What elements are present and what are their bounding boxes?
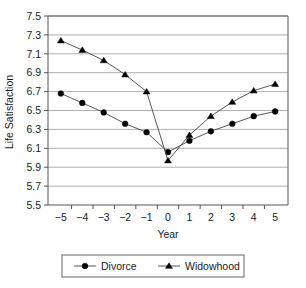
data-point-circle <box>101 110 107 116</box>
data-point-circle <box>58 91 64 97</box>
x-tick-label: 5 <box>272 211 278 223</box>
data-point-circle <box>82 263 88 269</box>
x-tick-label: −5 <box>55 211 67 223</box>
x-tick-label: −1 <box>141 211 153 223</box>
y-tick-label: 7.1 <box>26 48 41 60</box>
y-tick-label: 6.1 <box>26 142 41 154</box>
data-point-circle <box>187 138 193 144</box>
data-point-triangle <box>57 37 64 43</box>
legend-label: Widowhood <box>185 260 240 272</box>
x-tick-label: 1 <box>187 211 193 223</box>
data-series <box>57 37 278 163</box>
x-tick-label: 4 <box>251 211 257 223</box>
y-tick-label: 6.5 <box>26 104 41 116</box>
y-tick-label: 5.9 <box>26 161 41 173</box>
x-tick-label: −2 <box>119 211 131 223</box>
data-point-circle <box>251 113 257 119</box>
x-tick-label: −4 <box>76 211 88 223</box>
legend-label: Divorce <box>101 260 137 272</box>
data-point-triangle <box>79 47 86 53</box>
data-point-circle <box>144 129 150 135</box>
life-satisfaction-line-chart: 5.55.75.96.16.36.56.76.97.17.37.5 −5−4−3… <box>0 0 306 288</box>
data-point-triangle <box>207 113 214 119</box>
x-tick-label: 2 <box>208 211 214 223</box>
y-tick-label: 7.5 <box>26 10 41 22</box>
data-point-circle <box>79 100 85 106</box>
y-tick-label: 6.9 <box>26 66 41 78</box>
y-tick-label: 5.7 <box>26 180 41 192</box>
series-divorce <box>58 91 278 155</box>
x-tick-label: −3 <box>98 211 110 223</box>
y-axis-ticks: 5.55.75.96.16.36.56.76.97.17.37.5 <box>26 10 48 211</box>
y-tick-label: 7.3 <box>26 29 41 41</box>
data-point-circle <box>272 109 278 115</box>
chart-figure: 5.55.75.96.16.36.56.76.97.17.37.5 −5−4−3… <box>0 0 306 288</box>
data-point-triangle <box>122 71 129 77</box>
y-tick-label: 5.5 <box>26 199 41 211</box>
series-widowhood <box>57 37 278 163</box>
data-point-triangle <box>229 99 236 105</box>
data-point-circle <box>229 121 235 127</box>
data-point-circle <box>208 128 214 134</box>
chart-legend: DivorceWidowhood <box>62 255 244 277</box>
x-tick-label: 3 <box>229 211 235 223</box>
data-point-triangle <box>272 81 279 87</box>
series-line-widowhood <box>61 41 275 161</box>
series-line-divorce <box>61 93 275 152</box>
data-point-circle <box>122 121 128 127</box>
x-axis-title: Year <box>157 228 179 240</box>
y-tick-label: 6.3 <box>26 123 41 135</box>
x-axis-ticks: −5−4−3−2−1012345 <box>55 205 278 223</box>
y-tick-label: 6.7 <box>26 85 41 97</box>
x-tick-label: 0 <box>165 211 171 223</box>
data-point-triangle <box>100 57 107 63</box>
y-axis-title: Life Satisfaction <box>3 75 15 149</box>
